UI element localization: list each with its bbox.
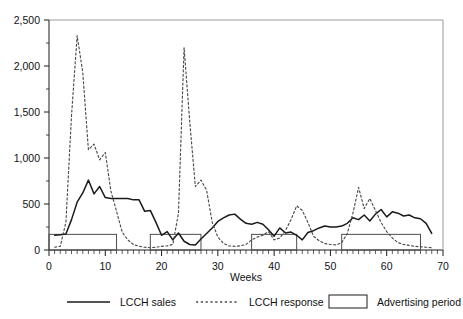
x-axis-tick-label: 70 [437, 260, 449, 272]
line-chart: 05001,0001,5002,0002,500 010203040506070… [0, 0, 463, 319]
legend-label-lcch-sales: LCCH sales [120, 296, 176, 308]
legend-label-advertising-period: Advertising period [377, 296, 461, 308]
y-axis-tick-label: 2,000 [14, 60, 40, 72]
legend-label-lcch-response: LCCH response [249, 296, 324, 308]
y-axis-tick-label: 0 [34, 244, 40, 256]
chart-legend: LCCH sales LCCH response Advertising per… [67, 295, 461, 308]
y-axis-tick-label: 2,500 [14, 14, 40, 26]
x-axis-tick-label: 10 [99, 260, 111, 272]
y-axis-tick-label: 1,500 [14, 106, 40, 118]
chart-figure: 05001,0001,5002,0002,500 010203040506070… [0, 0, 463, 319]
y-axis-tick-label: 500 [22, 198, 40, 210]
x-axis-tick-label: 60 [381, 260, 393, 272]
x-axis-tick-label: 20 [156, 260, 168, 272]
y-axis-tick-label: 1,000 [14, 152, 40, 164]
x-axis-tick-label: 50 [325, 260, 337, 272]
x-axis-tick-label: 30 [212, 260, 224, 272]
x-axis-tick-label: 40 [268, 260, 280, 272]
x-axis-title: Weeks [230, 271, 262, 283]
x-axis-tick-label: 0 [46, 260, 52, 272]
